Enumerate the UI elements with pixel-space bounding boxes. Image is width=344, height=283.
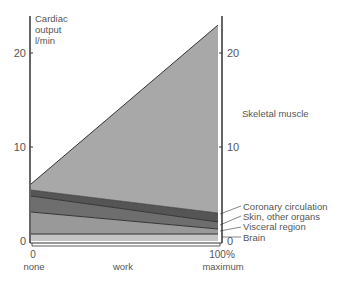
yaxis-label-3: l/min	[35, 35, 55, 46]
x-label-maximum: maximum	[202, 261, 243, 272]
label-skeletal-muscle: Skeletal muscle	[242, 108, 309, 119]
tick-left-0: 0	[20, 235, 26, 247]
yaxis-label-1: Cardiac	[35, 13, 68, 24]
tick-right-20: 20	[227, 47, 239, 59]
x-tick-0: 0	[30, 249, 36, 260]
tick-right-10: 10	[227, 141, 239, 153]
cardiac-output-chart: Cardiac output l/min 20 10 0 20 10 0 0 1…	[0, 0, 344, 283]
tick-left-10: 10	[14, 141, 26, 153]
x-label-none: none	[23, 261, 44, 272]
label-brain: Brain	[243, 232, 265, 243]
label-visceral: Visceral region	[243, 221, 306, 232]
tick-left-20: 20	[14, 47, 26, 59]
area-brain	[31, 234, 218, 241]
x-tick-100: 100%	[209, 249, 235, 260]
yaxis-label-2: output	[35, 24, 62, 35]
x-label-work: work	[112, 261, 133, 272]
area-skeletal-muscle	[31, 25, 218, 213]
tick-right-0: 0	[227, 235, 233, 247]
